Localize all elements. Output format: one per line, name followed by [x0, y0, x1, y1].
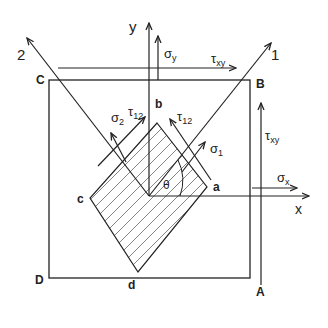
- sigma-1-label: σ1: [210, 141, 223, 158]
- corner-label-a-outer: A: [256, 285, 265, 299]
- corner-label-b-outer: B: [256, 77, 265, 91]
- inner-element: [60, 114, 270, 300]
- tau-12-left-label: τ12: [128, 104, 143, 121]
- corner-label-d-inner: d: [128, 278, 135, 292]
- axis-1-label: 1: [271, 46, 279, 63]
- sigma-1-arrow: [182, 142, 205, 172]
- corner-label-a-inner: a: [213, 180, 220, 194]
- sigma-x-label: σx: [277, 170, 290, 187]
- theta-label: θ: [163, 178, 170, 192]
- tau-xy-top-label: τxy: [211, 51, 226, 68]
- tau-12-right-label: τ12: [177, 109, 192, 126]
- corner-label-d-outer: D: [35, 273, 44, 287]
- corner-label-c-inner: c: [77, 192, 84, 206]
- corner-label-b-inner: b: [155, 97, 162, 111]
- axis-2-label: 2: [17, 46, 25, 63]
- y-axis-label: y: [129, 18, 137, 35]
- tau-xy-right-label: τxy: [265, 128, 280, 145]
- x-axis-label: x: [295, 201, 302, 217]
- theta-arc: [178, 160, 183, 196]
- sigma-2-arrow: [111, 133, 126, 162]
- principal-axis-1: [149, 43, 271, 196]
- stress-element-diagram: C B A D b a c d y x 1 2 θ σy τxy τxy σx …: [0, 0, 328, 328]
- sigma-y-label: σy: [164, 46, 177, 63]
- sigma-2-label: σ2: [111, 110, 124, 127]
- corner-label-c-outer: C: [36, 73, 45, 87]
